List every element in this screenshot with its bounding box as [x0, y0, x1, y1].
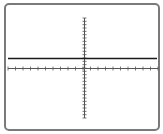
- oscilloscope-graticule: [0, 0, 163, 134]
- horizontal-axis: [8, 67, 158, 71]
- vertical-axis: [83, 18, 87, 118]
